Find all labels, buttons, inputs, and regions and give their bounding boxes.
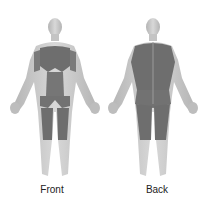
front-body-figure: Front — [0, 0, 104, 202]
back-body-figure: Back — [105, 0, 209, 202]
back-body-illustration — [105, 0, 209, 184]
back-label: Back — [105, 184, 209, 195]
front-body-illustration — [0, 0, 104, 184]
front-label: Front — [0, 184, 104, 195]
